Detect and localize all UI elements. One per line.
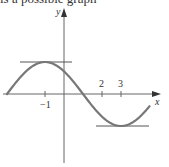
tick-label-3: 3	[118, 78, 123, 89]
x-axis-label: x	[154, 96, 160, 107]
tick-label-neg1: −1	[40, 99, 51, 110]
y-axis-label: y	[55, 6, 61, 17]
graph-diagram: −1 2 3 x y	[0, 0, 169, 167]
y-axis-arrow-icon	[61, 8, 67, 17]
tick-label-2: 2	[99, 78, 104, 89]
